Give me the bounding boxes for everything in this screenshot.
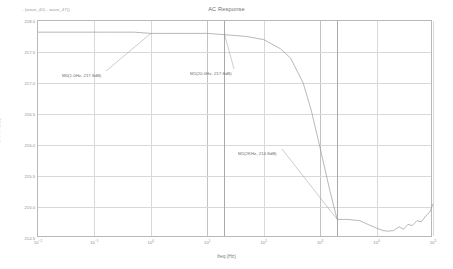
x-gridline: [433, 21, 434, 236]
x-tick-label: 102: [260, 239, 266, 245]
x-tick-label: 10−1: [90, 239, 98, 245]
marker-label-m0[interactable]: M0(1.0Hz, 217.8dB): [62, 73, 101, 78]
y-axis-title: CMRR (dB): [0, 118, 1, 143]
y-tick-label: 217.5: [25, 50, 35, 55]
x-tick-label: 104: [373, 239, 379, 245]
y-tick-label: 214.5: [25, 236, 35, 241]
y-tick-label: 216.5: [25, 112, 35, 117]
x-tick-label: 105: [430, 239, 436, 245]
chart-canvas: - (wave_40) - wave_47() AC Response CMRR…: [0, 0, 453, 269]
marker-label-m1[interactable]: M1(20.0Hz, 217.8dB): [190, 71, 232, 76]
trace-layer: [38, 21, 433, 238]
x-tick-label: 100: [148, 239, 154, 245]
marker-leader-line: [282, 149, 337, 219]
marker-leader-line: [224, 33, 234, 69]
y-tick-label: 217.0: [25, 81, 35, 86]
plot-area: 10−210−1100101102103104105214.5215.0215.…: [37, 20, 432, 237]
y-tick-label: 215.0: [25, 205, 35, 210]
y-tick-label: 215.5: [25, 174, 35, 179]
marker-leader-line: [106, 33, 151, 71]
y-tick-label: 216.0: [25, 143, 35, 148]
x-tick-label: 101: [204, 239, 210, 245]
x-axis-title: freq (Hz): [0, 254, 453, 259]
x-tick-label: 103: [317, 239, 323, 245]
y-tick-label: 218.0: [25, 19, 35, 24]
chart-title: AC Response: [0, 6, 453, 12]
trace-line: [38, 32, 433, 231]
x-tick-label: 10−2: [34, 239, 42, 245]
marker-label-m1[interactable]: M1(2KHz, 214.8dB): [238, 151, 277, 156]
